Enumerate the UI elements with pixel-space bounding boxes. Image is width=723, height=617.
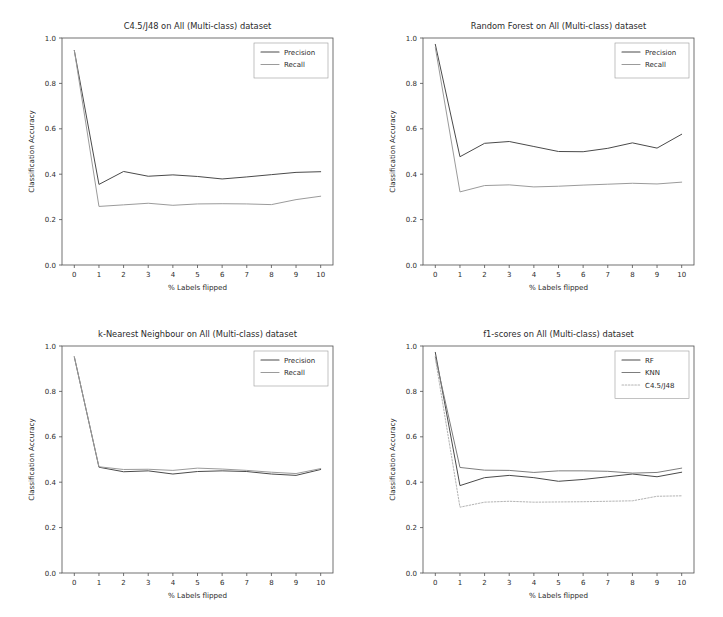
x-tick-label: 2 (482, 271, 486, 279)
x-tick-label: 8 (269, 271, 273, 279)
y-tick-label: 0.8 (406, 80, 417, 88)
x-tick-label: 3 (146, 271, 150, 279)
y-tick-label: 0.4 (406, 171, 418, 179)
y-tick-label: 0.6 (406, 125, 418, 133)
y-axis-label: Classification Accuracy (27, 109, 36, 192)
legend-entry-label: Precision (284, 357, 315, 365)
x-tick-label: 3 (507, 579, 511, 587)
x-tick-label: 6 (220, 579, 225, 587)
legend-entry-label: Precision (645, 49, 676, 57)
y-tick-label: 1.0 (406, 35, 417, 43)
x-tick-label: 4 (171, 579, 176, 587)
x-tick-label: 6 (581, 579, 586, 587)
x-tick-label: 9 (655, 579, 659, 587)
x-axis-label: % Labels flipped (529, 283, 588, 292)
x-tick-label: 4 (532, 579, 537, 587)
x-tick-label: 9 (294, 271, 298, 279)
y-tick-label: 0.4 (406, 479, 418, 487)
y-tick-label: 0.8 (45, 388, 56, 396)
x-axis-label: % Labels flipped (168, 591, 227, 600)
x-tick-label: 0 (433, 271, 437, 279)
chart-panel-c45: C4.5/J48 on All (Multi-class) dataset0.0… (0, 0, 361, 308)
x-tick-label: 5 (556, 579, 560, 587)
x-tick-label: 6 (581, 271, 586, 279)
legend-entry-label: RF (645, 357, 654, 365)
x-tick-label: 7 (245, 579, 249, 587)
y-tick-label: 0.0 (406, 570, 417, 578)
legend-entry-label: Recall (645, 61, 666, 69)
chart-panel-random-forest: Random Forest on All (Multi-class) datas… (361, 0, 722, 308)
x-tick-label: 8 (269, 579, 273, 587)
y-tick-label: 0.8 (406, 388, 417, 396)
y-tick-label: 0.8 (45, 80, 56, 88)
y-tick-label: 0.4 (45, 171, 57, 179)
legend-entry-label: KNN (645, 369, 660, 377)
y-axis-label: Classification Accuracy (27, 417, 36, 500)
x-tick-label: 10 (316, 271, 325, 279)
x-axis-label: % Labels flipped (529, 591, 588, 600)
x-axis-label: % Labels flipped (168, 283, 227, 292)
x-tick-label: 9 (655, 271, 659, 279)
x-tick-label: 4 (171, 271, 176, 279)
y-tick-label: 0.6 (45, 125, 57, 133)
x-tick-label: 7 (245, 271, 249, 279)
y-tick-label: 0.4 (45, 479, 57, 487)
x-tick-label: 6 (220, 271, 225, 279)
y-tick-label: 1.0 (45, 35, 56, 43)
x-tick-label: 1 (97, 579, 101, 587)
y-tick-label: 0.2 (45, 216, 56, 224)
x-tick-label: 9 (294, 579, 298, 587)
x-tick-label: 3 (507, 271, 511, 279)
legend-entry-label: Precision (284, 49, 315, 57)
x-tick-label: 8 (630, 579, 634, 587)
y-tick-label: 0.2 (406, 216, 417, 224)
x-tick-label: 5 (556, 271, 560, 279)
chart-panel-f1-scores: f1-scores on All (Multi-class) dataset0.… (361, 308, 722, 616)
x-tick-label: 0 (433, 579, 437, 587)
chart-title: Random Forest on All (Multi-class) datas… (471, 21, 647, 31)
y-axis-label: Classification Accuracy (388, 417, 397, 500)
legend-entry-label: Recall (284, 369, 305, 377)
x-tick-label: 10 (316, 579, 325, 587)
chart-title: C4.5/J48 on All (Multi-class) dataset (124, 21, 272, 31)
legend-entry-label: Recall (284, 61, 305, 69)
y-tick-label: 0.0 (406, 262, 417, 270)
x-tick-label: 2 (482, 579, 486, 587)
chart-title: f1-scores on All (Multi-class) dataset (483, 329, 634, 339)
x-tick-label: 7 (606, 271, 610, 279)
x-tick-label: 0 (72, 271, 76, 279)
x-tick-label: 10 (677, 271, 686, 279)
x-tick-label: 2 (121, 579, 125, 587)
chart-panel-knn: k-Nearest Neighbour on All (Multi-class)… (0, 308, 361, 616)
x-tick-label: 1 (458, 271, 462, 279)
x-tick-label: 3 (146, 579, 150, 587)
y-tick-label: 1.0 (45, 343, 56, 351)
y-tick-label: 0.6 (45, 433, 57, 441)
y-tick-label: 0.6 (406, 433, 418, 441)
x-tick-label: 4 (532, 271, 537, 279)
x-tick-label: 8 (630, 271, 634, 279)
x-tick-label: 0 (72, 579, 76, 587)
y-tick-label: 0.0 (45, 570, 56, 578)
y-tick-label: 0.2 (406, 524, 417, 532)
y-tick-label: 0.2 (45, 524, 56, 532)
x-tick-label: 10 (677, 579, 686, 587)
figure-canvas: C4.5/J48 on All (Multi-class) dataset0.0… (0, 0, 723, 617)
y-axis-label: Classification Accuracy (388, 109, 397, 192)
x-tick-label: 2 (121, 271, 125, 279)
x-tick-label: 1 (458, 579, 462, 587)
chart-title: k-Nearest Neighbour on All (Multi-class)… (98, 329, 298, 339)
x-tick-label: 7 (606, 579, 610, 587)
legend-entry-label: C4.5/J48 (645, 382, 674, 390)
x-tick-label: 5 (195, 579, 199, 587)
y-tick-label: 1.0 (406, 343, 417, 351)
y-tick-label: 0.0 (45, 262, 56, 270)
x-tick-label: 1 (97, 271, 101, 279)
x-tick-label: 5 (195, 271, 199, 279)
